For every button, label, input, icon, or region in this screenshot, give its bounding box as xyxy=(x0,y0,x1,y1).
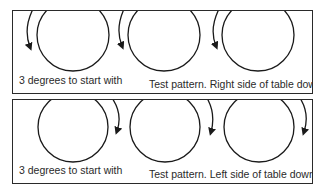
circle-2 xyxy=(130,100,200,162)
arrow-icon xyxy=(119,11,124,46)
panel-left-side-down: 3 degrees to start with Test pattern. Le… xyxy=(12,99,313,184)
caption-start: 3 degrees to start with xyxy=(19,74,122,86)
arrow-icon xyxy=(300,100,306,132)
arrow-icon xyxy=(213,11,219,46)
circle-3 xyxy=(224,100,294,162)
arrow-icon xyxy=(207,100,213,132)
arrow-icon xyxy=(27,11,33,47)
panel-right-side-down: 3 degrees to start with Test pattern. Ri… xyxy=(12,10,313,94)
circle-2 xyxy=(128,11,200,71)
caption-test-pattern: Test pattern. Left side of table down. xyxy=(149,168,313,180)
caption-start: 3 degrees to start with xyxy=(19,164,122,176)
circle-3 xyxy=(222,11,294,71)
circle-1 xyxy=(37,11,109,71)
caption-test-pattern: Test pattern. Right side of table down. xyxy=(149,78,313,90)
arrow-icon xyxy=(112,100,119,131)
circle-1 xyxy=(38,100,108,162)
